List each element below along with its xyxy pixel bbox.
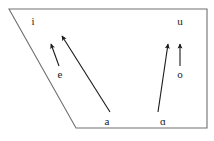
vowel-label-e: e [58,69,63,80]
vowel-label-i: i [31,16,34,27]
vowel-label-script-a: ɑ [160,116,166,127]
vowel-label-u: u [177,16,183,27]
vowel-label-o: o [177,69,183,80]
vowel-chart-figure: i u e o a ɑ [0,0,214,141]
vowel-label-a: a [105,116,110,127]
